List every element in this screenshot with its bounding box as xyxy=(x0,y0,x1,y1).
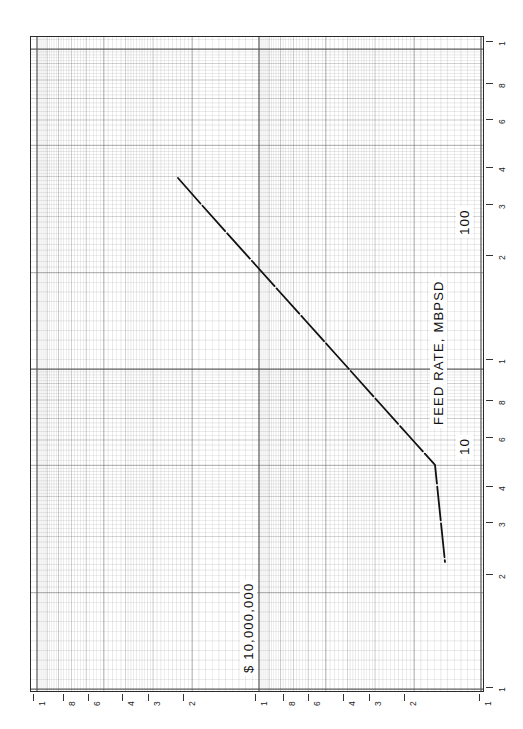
y-tick-mark xyxy=(486,687,493,688)
y-tick-label: 8 xyxy=(497,400,507,405)
y-tick-mark xyxy=(486,119,493,120)
y-tick-mark xyxy=(486,522,493,523)
y-tick-mark xyxy=(486,167,493,168)
y-tick-mark xyxy=(486,400,493,401)
x-tick-label: 6 xyxy=(92,701,102,706)
log-grid xyxy=(30,36,484,692)
decade-marker-100: 100 xyxy=(456,206,473,238)
y-tick-mark xyxy=(486,255,493,256)
x-tick-label: 4 xyxy=(347,701,357,706)
x-tick-mark xyxy=(479,694,480,701)
decade-marker-10: 10 xyxy=(456,435,473,458)
x-tick-label: 1 xyxy=(483,701,493,706)
y-tick-mark xyxy=(486,83,493,84)
y-tick-label: 2 xyxy=(497,574,507,579)
x-tick-label: 4 xyxy=(126,701,136,706)
y-tick-label: 8 xyxy=(497,83,507,88)
y-axis-title: $ 10,000,000 xyxy=(240,580,257,676)
y-tick-mark xyxy=(486,204,493,205)
x-tick-label: 1 xyxy=(37,701,47,706)
y-tick-label: 3 xyxy=(497,522,507,527)
y-tick-label: 6 xyxy=(497,437,507,442)
x-tick-mark xyxy=(122,694,123,701)
x-tick-mark xyxy=(88,694,89,701)
x-tick-label: 8 xyxy=(67,701,77,706)
x-tick-mark xyxy=(255,694,256,701)
y-tick-label: 1 xyxy=(497,41,507,46)
x-tick-mark xyxy=(283,694,284,701)
x-tick-mark xyxy=(369,694,370,701)
x-tick-mark xyxy=(148,694,149,701)
y-tick-label: 3 xyxy=(497,204,507,209)
y-tick-label: 1 xyxy=(497,359,507,364)
y-tick-mark xyxy=(486,486,493,487)
x-tick-mark xyxy=(343,694,344,701)
y-tick-mark xyxy=(486,359,493,360)
x-tick-mark xyxy=(404,694,405,701)
y-tick-mark xyxy=(486,574,493,575)
x-tick-label: 3 xyxy=(373,701,383,706)
graph-sheet: 1864321864321 1864321864321 10010 FEED R… xyxy=(0,0,523,729)
y-tick-label: 6 xyxy=(497,119,507,124)
y-tick-label: 4 xyxy=(497,486,507,491)
plot-area xyxy=(30,36,484,692)
y-tick-mark xyxy=(486,41,493,42)
x-tick-mark xyxy=(33,694,34,701)
y-tick-label: 1 xyxy=(497,687,507,692)
x-tick-label: 8 xyxy=(287,701,297,706)
y-tick-label: 4 xyxy=(497,167,507,172)
y-tick-label: 2 xyxy=(497,255,507,260)
x-axis-title: FEED RATE, MBPSD xyxy=(430,277,447,428)
x-tick-label: 1 xyxy=(259,701,269,706)
x-tick-label: 3 xyxy=(152,701,162,706)
x-tick-mark xyxy=(183,694,184,701)
x-tick-mark xyxy=(63,694,64,701)
x-tick-label: 6 xyxy=(312,701,322,706)
x-tick-mark xyxy=(308,694,309,701)
x-tick-label: 2 xyxy=(408,701,418,706)
x-tick-label: 2 xyxy=(187,701,197,706)
y-tick-mark xyxy=(486,437,493,438)
